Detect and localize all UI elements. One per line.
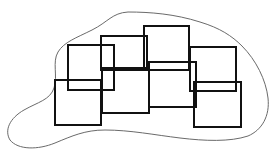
rectangle-g xyxy=(194,82,241,127)
rectangle-b xyxy=(55,80,101,125)
rectangle-c xyxy=(101,36,147,70)
rectangle-d xyxy=(144,26,189,70)
rectangle-group xyxy=(55,26,241,127)
diagram-canvas xyxy=(0,0,275,159)
